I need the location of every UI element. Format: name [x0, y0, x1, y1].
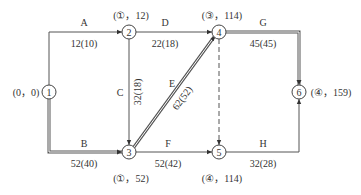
node-1-label: 1 — [47, 87, 52, 98]
edge-b-name: B — [81, 138, 88, 149]
node-5-label: 5 — [217, 147, 222, 158]
node-5-annotation: (④，114) — [202, 173, 242, 185]
node-2-label: 2 — [127, 27, 132, 38]
node-3-label: 3 — [127, 147, 132, 158]
network-diagram: A 12(10) B 52(40) C 32(18) D 22(18) E 62… — [0, 0, 361, 195]
edge-a-value: 12(10) — [71, 38, 98, 50]
edge-e: E 62(52) — [134, 37, 214, 148]
edge-c-name: C — [117, 87, 124, 98]
edge-h-value: 32(28) — [250, 158, 277, 170]
node-4-label: 4 — [217, 27, 222, 38]
edge-f-name: F — [165, 138, 171, 149]
edge-b: B 52(40) — [49, 99, 122, 170]
node-5: 5 (④，114) — [202, 145, 242, 185]
node-6-label: 6 — [297, 87, 302, 98]
edge-d-value: 22(18) — [152, 38, 179, 50]
edge-d: D 22(18) — [136, 17, 212, 50]
node-1: 1 (0，0) — [13, 85, 56, 99]
edge-f: F 52(42) — [136, 138, 212, 170]
edge-e-name: E — [169, 78, 175, 89]
edge-g-name: G — [259, 17, 266, 28]
node-4: 4 (③，114) — [202, 10, 242, 39]
edge-a: A 12(10) — [49, 17, 122, 85]
node-1-annotation: (0，0) — [13, 87, 40, 99]
edge-d-name: D — [161, 17, 168, 28]
edge-c: C 32(18) — [117, 39, 144, 145]
edge-h: H 32(28) — [226, 99, 299, 170]
node-6: 6 (④，159) — [292, 85, 351, 99]
node-4-annotation: (③，114) — [202, 10, 242, 22]
node-6-annotation: (④，159) — [311, 87, 352, 99]
edge-h-name: H — [259, 138, 266, 149]
edge-g: G 45(45) — [226, 17, 302, 85]
node-2: 2 (①，12) — [113, 10, 149, 39]
node-3-annotation: (①，52) — [113, 173, 149, 185]
edge-g-value: 45(45) — [250, 38, 277, 50]
edge-b-value: 52(40) — [71, 158, 98, 170]
node-2-annotation: (①，12) — [113, 10, 149, 22]
edge-a-name: A — [80, 17, 88, 28]
edge-f-value: 52(42) — [155, 158, 182, 170]
edge-c-value: 32(18) — [132, 79, 144, 106]
